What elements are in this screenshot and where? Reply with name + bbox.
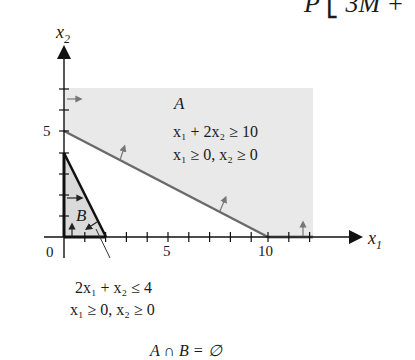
header-formula-fragment: P ⎣ 3M + [303, 0, 404, 19]
region-b-label: B [76, 206, 87, 225]
region-b-constraint-1: 2x₁ + x₂ ≤ 4 [75, 279, 152, 296]
region-a-constraint-2: x₁ ≥ 0, x₂ ≥ 0 [173, 146, 258, 163]
x-tick-label-10: 10 [258, 243, 273, 259]
origin-label: 0 [46, 244, 54, 260]
feasible-regions-diagram: P ⎣ 3M + [0, 0, 415, 360]
y-tick-label-5: 5 [43, 123, 51, 139]
x-axis-label: x1 [367, 228, 382, 252]
region-b-constraint-2: x₁ ≥ 0, x₂ ≥ 0 [70, 301, 155, 318]
intersection-empty-statement: A ∩ B = ∅ [149, 342, 223, 359]
region-a-constraint-1: x₁ + 2x₂ ≥ 10 [173, 123, 258, 140]
x-tick-label-5: 5 [163, 243, 171, 259]
region-a-label: A [173, 94, 185, 113]
y-axis-label: x2 [55, 22, 70, 46]
